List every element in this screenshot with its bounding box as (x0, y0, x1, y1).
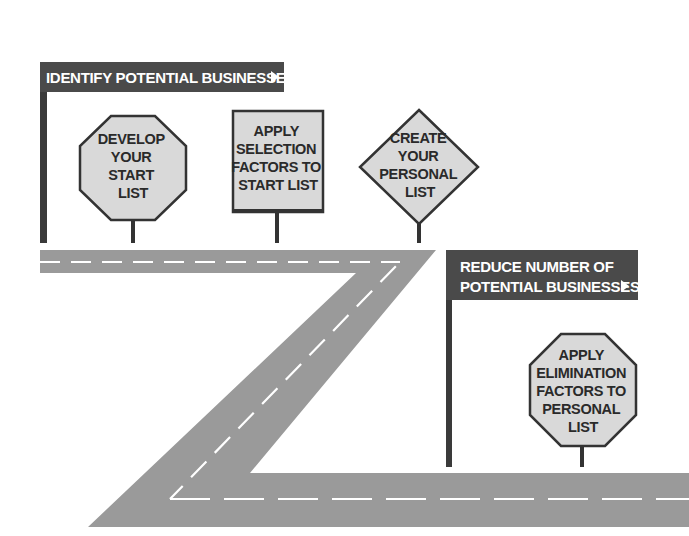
sign-post (580, 446, 584, 467)
sign-line: LIST (405, 184, 436, 200)
banner-label-line-2: POTENTIAL BUSINESSES (460, 278, 640, 295)
sign-line: YOUR (111, 149, 153, 165)
sign-line: DEVELOP (98, 131, 166, 147)
sign-line: YOUR (398, 148, 440, 164)
sign-line: FACTORS TO (231, 159, 321, 175)
sign-create-personal-list: CREATE YOUR PERSONAL LIST (360, 110, 478, 243)
sign-line: APPLY (559, 347, 605, 363)
sign-line: PERSONAL (379, 166, 458, 182)
sign-line: FACTORS TO (536, 383, 626, 399)
sign-line: CREATE (390, 130, 447, 146)
sign-line: PERSONAL (542, 401, 621, 417)
sign-post (275, 212, 279, 243)
sign-line: APPLY (254, 123, 300, 139)
sign-line: START (108, 167, 154, 183)
sign-line: LIST (118, 185, 149, 201)
sign-apply-elimination-factors: APPLY ELIMINATION FACTORS TO PERSONAL LI… (530, 334, 636, 467)
banner-label: IDENTIFY POTENTIAL BUSINESSES (46, 69, 295, 86)
sign-develop-start-list: DEVELOP YOUR START LIST (80, 116, 186, 243)
road-diagram: IDENTIFY POTENTIAL BUSINESSES DEVELOP YO… (0, 0, 689, 536)
sign-line: START LIST (238, 177, 318, 193)
sign-line: SELECTION (236, 141, 316, 157)
sign-shadow (233, 209, 323, 213)
sign-line: LIST (568, 419, 599, 435)
banner-label-line-1: REDUCE NUMBER OF (460, 258, 614, 275)
sign-line: ELIMINATION (536, 365, 626, 381)
sign-apply-selection-factors: APPLY SELECTION FACTORS TO START LIST (231, 111, 325, 243)
